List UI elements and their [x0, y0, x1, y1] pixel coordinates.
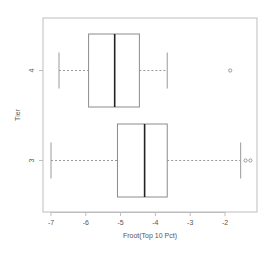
- x-axis-title: Froot(Top 10 Pct): [123, 232, 177, 240]
- boxplot-chart: -7-6-5-4-3-2 34 Froot(Top 10 Pct) Tier: [0, 0, 271, 255]
- iqr-box: [117, 124, 167, 197]
- x-tick-label: -7: [48, 219, 54, 226]
- outlier-point: [229, 69, 232, 72]
- y-axis: 34: [28, 68, 43, 162]
- x-tick-label: -3: [187, 219, 193, 226]
- x-tick-label: -6: [83, 219, 89, 226]
- x-tick-label: -4: [152, 219, 158, 226]
- x-axis: -7-6-5-4-3-2: [48, 212, 228, 226]
- y-tick-label: 4: [28, 68, 35, 72]
- y-axis-title: Tier: [14, 108, 21, 120]
- boxes: [51, 34, 252, 197]
- outlier-point: [244, 159, 247, 162]
- box-tier-3: [51, 124, 252, 197]
- y-tick-label: 3: [28, 158, 35, 162]
- x-tick-label: -2: [222, 219, 228, 226]
- x-tick-label: -5: [117, 219, 123, 226]
- outlier-point: [249, 159, 252, 162]
- box-tier-4: [59, 34, 232, 107]
